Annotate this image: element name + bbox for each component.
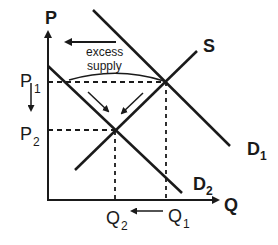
q2-label: Q2 — [106, 208, 128, 233]
excess-supply-label-line1: excess — [86, 45, 123, 59]
p2-label: P2 — [20, 124, 40, 149]
demand-curve-1 — [93, 10, 230, 146]
demand-1-label: D1 — [247, 139, 267, 163]
demand-2-label: D2 — [193, 174, 213, 198]
x-axis-label: Q — [224, 195, 238, 215]
supply-label: S — [203, 36, 215, 56]
movement-arrow-right — [122, 93, 143, 113]
y-axis-label: P — [45, 8, 57, 28]
supply-demand-diagram: P Q S D1 D2 excess supply P1 P2 Q2 Q1 — [0, 0, 278, 245]
excess-supply-bracket — [69, 73, 164, 81]
excess-supply-label-line2: supply — [87, 59, 122, 73]
q1-label: Q1 — [168, 206, 190, 231]
